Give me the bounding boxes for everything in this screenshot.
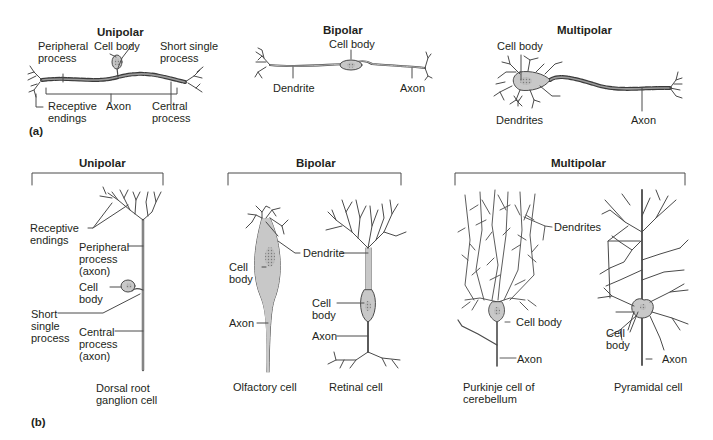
- panel-label-b: (b): [31, 416, 46, 428]
- title-b-bipolar: Bipolar: [296, 157, 336, 169]
- label-b-cell-body: Cell body: [79, 281, 103, 305]
- olfactory-cell: [246, 206, 300, 372]
- label-b-olfactory-axon: Axon: [229, 317, 254, 329]
- retinal-cell: [326, 200, 406, 368]
- label-a-multipolar-cell-body: Cell body: [497, 40, 543, 52]
- label-a-bipolar-cell-body: Cell body: [329, 38, 375, 50]
- label-b-retinal-cell-body: Cell body: [312, 297, 336, 321]
- label-b-purkinje-cell-body: Cell body: [516, 316, 562, 328]
- label-b-retinal-axon: Axon: [312, 330, 337, 342]
- label-b-short-single-process: Short single process: [31, 308, 70, 344]
- label-b-dendrite: Dendrite: [303, 247, 345, 259]
- bracket-multipolar: [455, 173, 685, 185]
- bracket-bipolar: [228, 173, 401, 185]
- label-b-peripheral-process: Peripheral process (axon): [79, 241, 129, 277]
- label-a-axon: Axon: [106, 100, 131, 112]
- label-a-peripheral-process: Peripheral process: [38, 40, 88, 64]
- multipolar-neuron-a: [494, 55, 682, 111]
- label-b-pyramidal-axon: Axon: [662, 353, 687, 365]
- neuron-diagram-art: [0, 0, 713, 440]
- caption-pyramidal-cell: Pyramidal cell: [614, 381, 682, 393]
- panel-label-a: (a): [29, 125, 43, 137]
- label-a-bipolar-dendrite: Dendrite: [273, 82, 315, 94]
- label-b-receptive-endings: Receptive endings: [30, 222, 79, 246]
- caption-dorsal-root-ganglion-cell: Dorsal root ganglion cell: [96, 382, 157, 406]
- title-a-multipolar: Multipolar: [557, 24, 612, 36]
- label-a-multipolar-dendrites: Dendrites: [496, 114, 543, 126]
- label-b-dendrites: Dendrites: [554, 221, 601, 233]
- label-a-central-process: Central process: [152, 100, 191, 124]
- label-a-receptive-endings: Receptive endings: [48, 100, 97, 124]
- caption-purkinje-cell: Purkinje cell of cerebellum: [463, 381, 535, 405]
- title-b-unipolar: Unipolar: [79, 157, 126, 169]
- label-a-short-single-process: Short single process: [160, 40, 218, 64]
- label-a-bipolar-axon: Axon: [400, 82, 425, 94]
- label-b-central-process: Central process (axon): [79, 326, 118, 362]
- bipolar-neuron-a: [255, 48, 432, 80]
- label-b-olfactory-cell-body: Cell body: [229, 261, 253, 285]
- caption-olfactory-cell: Olfactory cell: [233, 381, 297, 393]
- title-a-unipolar: Unipolar: [97, 26, 144, 38]
- label-a-cell-body: Cell body: [94, 40, 140, 52]
- label-b-purkinje-axon: Axon: [517, 353, 542, 365]
- bracket-unipolar: [32, 173, 163, 185]
- purkinje-cell: [458, 190, 552, 366]
- caption-retinal-cell: Retinal cell: [329, 381, 383, 393]
- title-b-multipolar: Multipolar: [551, 157, 606, 169]
- label-b-pyramidal-cell-body: Cell body: [606, 327, 630, 351]
- label-a-multipolar-axon: Axon: [631, 114, 656, 126]
- title-a-bipolar: Bipolar: [323, 24, 363, 36]
